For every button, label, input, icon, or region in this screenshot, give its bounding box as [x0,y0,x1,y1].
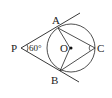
label-a: A [52,14,60,26]
label-c: C [97,42,104,54]
angle-arc-p [27,45,28,52]
label-p: P [11,42,17,54]
angle-arc-c [89,45,90,50]
label-b: B [51,74,58,86]
label-o: O [60,42,68,54]
geometry-diagram: P A B O C 60° [0,0,112,98]
center-dot [70,47,73,50]
angle-label-p: 60° [29,43,42,53]
tangent-pb [21,48,79,82]
